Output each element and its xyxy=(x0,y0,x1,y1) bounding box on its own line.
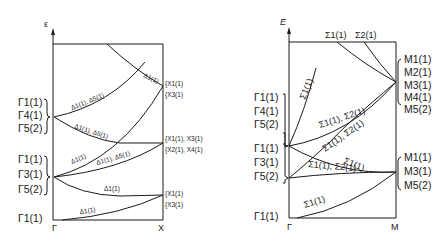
brace-icon xyxy=(44,156,50,195)
m-label: M3(1) xyxy=(404,79,431,91)
band-structure-diagram: ε Δ1(1) Δ1(1), Δ5(1) Δ1(1), Δ5(1) Δ1(1) … xyxy=(0,0,447,241)
branch-label: Σ1(1) xyxy=(303,194,327,210)
brace-icon xyxy=(44,99,50,134)
gamma-label: Γ5(2) xyxy=(254,118,278,130)
band-bottom xyxy=(297,172,396,218)
gamma-label: Γ3(1) xyxy=(18,168,42,180)
x-label: {X2(1), X4(1) xyxy=(165,146,203,154)
m-label: M5(2) xyxy=(404,179,431,191)
m-label: M3(1) xyxy=(404,165,431,177)
gamma-label: Γ1(1) xyxy=(18,153,42,165)
x-label: {X3(1) xyxy=(165,91,183,99)
axis-label: E xyxy=(280,17,287,27)
band-mid-to-m xyxy=(289,172,396,178)
band-top-sigma2 xyxy=(364,42,396,82)
m-point-label: M xyxy=(391,222,399,232)
sigma-label: Σ2(1) xyxy=(355,30,377,40)
branch-label: Δ1(1), Δ5(1) xyxy=(95,150,131,167)
x-point-label: X xyxy=(158,223,164,233)
axis-arrow-icon xyxy=(287,27,291,34)
branch-label: Δ1(1), Δ5(1) xyxy=(73,122,109,140)
axis-label: ε xyxy=(44,19,48,29)
m-label: M5(2) xyxy=(404,103,431,115)
band-bottom xyxy=(62,195,163,220)
axis-arrow-icon xyxy=(51,28,55,35)
branch-label: Δ1(1), Δ5(1) xyxy=(70,91,106,112)
sigma-label: Σ1(1) xyxy=(325,30,347,40)
brace-icon xyxy=(283,144,288,183)
x-label: {X1(1), X3(1) xyxy=(165,135,203,143)
branch-label: Σ1(1) xyxy=(298,77,315,101)
branch-label: Δ1(1) xyxy=(70,152,88,166)
gamma-label: Γ1(1) xyxy=(18,212,42,224)
gamma-label: Γ5(2) xyxy=(18,122,42,134)
brace-icon xyxy=(398,157,401,190)
branch-label: Δ1(1) xyxy=(104,185,120,193)
gamma-label: Γ4(1) xyxy=(254,105,278,117)
band-upper-rising xyxy=(54,62,145,117)
gamma-label: Γ3(1) xyxy=(254,156,278,168)
brace-icon xyxy=(283,94,288,147)
gamma-label: Γ5(2) xyxy=(18,183,42,195)
branch-label: Δ1(1) xyxy=(142,72,160,86)
x-label: {X3(1) xyxy=(165,201,183,209)
m-label: M4(1) xyxy=(404,91,431,103)
gamma-label: Γ1(1) xyxy=(254,91,278,103)
m-label: M1(1) xyxy=(404,151,431,163)
left-panel: ε Δ1(1) Δ1(1), Δ5(1) Δ1(1), Δ5(1) Δ1(1) … xyxy=(18,19,203,233)
gamma-point-label: Γ xyxy=(287,222,292,232)
band-top-sigma1 xyxy=(337,42,396,82)
x-label: {X1(1) xyxy=(165,190,183,198)
right-panel: E Σ1(1) Σ2(1) Σ1(1) Σ1(1), Σ2(1) Σ1(1), … xyxy=(254,17,431,232)
band-mid-rising-a xyxy=(54,86,163,177)
m-label: M2(1) xyxy=(404,66,431,78)
gamma-point-label: Γ xyxy=(52,223,57,233)
gamma-label: Γ1(1) xyxy=(254,210,278,222)
brace-icon xyxy=(398,59,401,105)
gamma-label: Γ1(1) xyxy=(18,96,42,108)
gamma-label: Γ4(1) xyxy=(18,109,42,121)
branch-label: Δ1(1) xyxy=(79,206,96,216)
band-mid-falling xyxy=(54,117,163,143)
x-label: {X1(1) xyxy=(165,80,183,88)
gamma-label: Γ5(2) xyxy=(254,170,278,182)
gamma-label: Γ1(1) xyxy=(254,142,278,154)
m-label: M1(1) xyxy=(404,53,431,65)
